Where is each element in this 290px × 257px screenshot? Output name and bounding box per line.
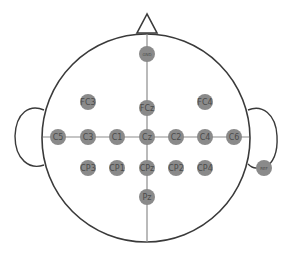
electrode-label: FC4 [197, 98, 212, 107]
electrode-label: FC3 [80, 98, 95, 107]
electrode-cp2: CP2 [168, 160, 184, 176]
electrode-cz: Cz [139, 129, 155, 145]
left-ear [15, 108, 44, 166]
electrode-label: Pz [142, 193, 151, 202]
electrode-label: C6 [229, 133, 240, 142]
electrode-label: Cz [142, 133, 152, 142]
electrode-label: CP3 [80, 164, 96, 173]
electrode-label: CPz [140, 164, 155, 173]
electrode-c3: C3 [80, 129, 96, 145]
electrode-cp3: CP3 [80, 160, 96, 176]
electrode-pz: Pz [139, 189, 155, 205]
electrode-label: REF [260, 166, 268, 171]
electrode-fcz: FCz [139, 100, 155, 116]
eeg-electrode-diagram: GNDFC3FCzFC4C5C3C1CzC2C4C6CP3CP1CPzCP2CP… [0, 0, 290, 257]
electrode-label: CP2 [168, 164, 184, 173]
electrode-gnd: GND [139, 46, 155, 62]
electrode-label: FCz [140, 104, 154, 113]
electrode-label: C1 [112, 133, 123, 142]
electrode-c1: C1 [109, 129, 125, 145]
electrode-ref: REF [256, 160, 272, 176]
electrode-label: C3 [83, 133, 94, 142]
electrode-label: C2 [171, 133, 182, 142]
electrode-c6: C6 [226, 129, 242, 145]
electrode-label: CP1 [109, 164, 125, 173]
electrode-c5: C5 [50, 129, 66, 145]
electrode-label: C5 [53, 133, 64, 142]
electrode-cpz: CPz [139, 160, 155, 176]
nose-marker [137, 14, 157, 33]
electrode-label: C4 [200, 133, 211, 142]
right-ear [248, 108, 277, 168]
electrode-c4: C4 [197, 129, 213, 145]
electrode-cp4: CP4 [197, 160, 213, 176]
electrode-c2: C2 [168, 129, 184, 145]
electrode-label: CP4 [197, 164, 213, 173]
electrode-cp1: CP1 [109, 160, 125, 176]
electrode-label: GND [142, 52, 151, 57]
electrode-fc4: FC4 [197, 94, 213, 110]
electrode-fc3: FC3 [80, 94, 96, 110]
